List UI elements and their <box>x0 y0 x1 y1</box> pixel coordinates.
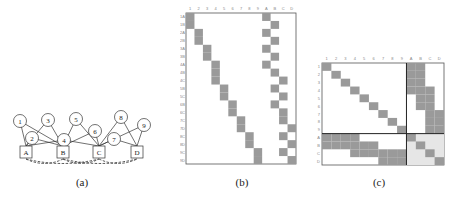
column-label: 7 <box>240 6 243 11</box>
row-label: 7 <box>318 112 321 117</box>
cell-4C-var <box>211 77 219 85</box>
cell-6B-var <box>228 100 236 108</box>
caption-a: (a) <box>62 176 102 188</box>
cell-C-5 <box>360 149 369 157</box>
cell-5B-var <box>220 85 228 93</box>
column-label: D <box>290 6 293 11</box>
column-label: 4 <box>214 6 217 11</box>
row-label: B <box>317 143 320 148</box>
column-label: 1 <box>189 6 192 11</box>
column-label: A <box>265 6 268 11</box>
cell-5-B <box>416 94 425 102</box>
cell-4-B <box>416 87 425 95</box>
row-label: 6C <box>180 110 185 115</box>
dashed-link-B-C <box>63 159 99 164</box>
cell-7D-factor <box>288 124 296 132</box>
column-label: 2 <box>198 6 201 11</box>
cell-9-D <box>435 126 444 134</box>
cell-3-A <box>406 79 415 87</box>
diagonal-cell-7 <box>378 110 387 118</box>
row-label: 4C <box>180 78 185 83</box>
cell-1B-var <box>186 21 194 29</box>
cell-1B-factor <box>271 21 279 29</box>
column-label: B <box>274 6 277 11</box>
cell-5C-factor <box>279 92 287 100</box>
cell-B-1 <box>322 141 331 149</box>
cell-4A-var <box>211 61 219 69</box>
row-label: 1B <box>180 22 185 27</box>
diagonal-cell-1 <box>322 63 331 71</box>
edge-9-C <box>99 125 144 146</box>
cell-C-7 <box>378 149 387 157</box>
row-label: C <box>317 151 320 156</box>
factor-node-label: C <box>97 149 102 157</box>
column-label: A <box>410 56 413 61</box>
cell-7-D <box>435 110 444 118</box>
cell-9D-factor <box>288 156 296 164</box>
column-label: B <box>419 56 422 61</box>
row-label: 8 <box>318 119 321 124</box>
column-label: C <box>428 56 431 61</box>
cell-2A-var <box>194 29 202 37</box>
column-label: 8 <box>248 6 251 11</box>
cell-7C-factor <box>279 116 287 124</box>
diagonal-cell-8 <box>388 118 397 126</box>
dashed-link-A-B <box>26 159 63 164</box>
variable-node-label: 9 <box>142 122 146 130</box>
variable-node-label: 4 <box>62 137 66 145</box>
cell-A-3 <box>341 134 350 142</box>
row-label: 7D <box>180 126 185 131</box>
cell-D-8 <box>388 157 397 165</box>
cell-C-9 <box>397 149 406 157</box>
column-label: D <box>438 56 441 61</box>
cell-5B-factor <box>271 85 279 93</box>
factor-node-label: B <box>61 149 66 157</box>
cell-4A-factor <box>262 61 270 69</box>
column-label: 8 <box>391 56 394 61</box>
cell-2B-var <box>194 37 202 45</box>
row-label: 9D <box>180 158 185 163</box>
row-label: 9 <box>318 127 321 132</box>
caption-b: (b) <box>222 176 262 188</box>
cell-A-4 <box>350 134 359 142</box>
cell-A-1 <box>322 134 331 142</box>
caption-c: (c) <box>359 176 399 188</box>
diagonal-cell-D <box>435 157 444 165</box>
column-label: 2 <box>335 56 338 61</box>
diagonal-cell-B <box>416 141 425 149</box>
cell-B-2 <box>331 141 340 149</box>
diagonal-cell-9 <box>397 126 406 134</box>
factor-graph-svg: 123456789ABCD <box>0 0 175 199</box>
column-label: 4 <box>354 56 357 61</box>
column-label: 3 <box>344 56 347 61</box>
row-label: 3A <box>180 46 185 51</box>
variable-node-label: 6 <box>93 128 97 136</box>
row-label: 5 <box>318 96 321 101</box>
cell-5-C <box>425 94 434 102</box>
row-label: 2A <box>180 30 185 35</box>
cell-3A-factor <box>262 45 270 53</box>
incidence-matrix-svg: 123456789ABCD1A1B2A2B3A3B4A4B4C5B5C6B6C7… <box>180 0 305 170</box>
diagonal-cell-5 <box>360 94 369 102</box>
block-matrix-svg: 123456789ABCD123456789ABCD <box>312 0 452 170</box>
row-label: 9C <box>180 150 185 155</box>
cell-C-8 <box>388 149 397 157</box>
diagonal-cell-4 <box>350 87 359 95</box>
cell-2-A <box>406 71 415 79</box>
cell-D-7 <box>378 157 387 165</box>
row-label: 2 <box>318 72 321 77</box>
row-label: D <box>317 159 320 164</box>
row-label: 6B <box>180 102 185 107</box>
cell-8-C <box>425 118 434 126</box>
row-label: 8C <box>180 134 185 139</box>
cell-3-B <box>416 79 425 87</box>
row-label: 7C <box>180 118 185 123</box>
cell-1-A <box>406 63 415 71</box>
column-label: 5 <box>363 56 366 61</box>
row-label: 4 <box>318 88 321 93</box>
diagonal-cell-6 <box>369 102 378 110</box>
factor-node-label: A <box>23 149 28 157</box>
variable-node-label: 8 <box>119 114 123 122</box>
row-label: 4A <box>180 62 185 67</box>
cell-D-9 <box>397 157 406 165</box>
